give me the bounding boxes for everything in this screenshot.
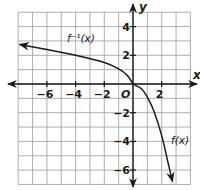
y-tick-label: 2 (122, 49, 130, 62)
x-tick-label: −2 (94, 88, 111, 101)
coordinate-plane: −6−4−2242−2−4−6 f⁻¹(x)f(x) x y O (0, 0, 200, 190)
inverse-function-curve (20, 45, 133, 84)
inverse-function-label: f⁻¹(x) (67, 32, 95, 44)
origin-label: O (121, 88, 130, 101)
x-tick-label: −6 (36, 88, 53, 101)
y-tick-label: −6 (113, 164, 130, 177)
function-label: f(x) (171, 134, 189, 146)
y-tick-label: −2 (113, 107, 130, 120)
x-tick-label: 2 (156, 88, 164, 101)
y-axis-label: y (139, 0, 148, 14)
x-axis-label: x (192, 68, 200, 82)
y-tick-label: −4 (113, 135, 130, 148)
x-tick-label: −4 (65, 88, 82, 101)
tick-labels: −6−4−2242−2−4−6 (36, 21, 163, 178)
y-tick-label: 4 (122, 21, 130, 34)
